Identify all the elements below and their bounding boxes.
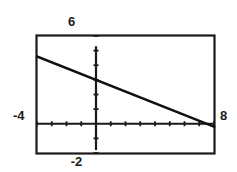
plot-canvas: [0, 0, 237, 172]
graph-figure: 6 -2 -4 8: [0, 0, 237, 172]
viewing-window-frame: [37, 36, 215, 154]
x-axis: [37, 121, 214, 126]
y-axis: [94, 36, 99, 153]
line-graph-series: [37, 56, 214, 126]
